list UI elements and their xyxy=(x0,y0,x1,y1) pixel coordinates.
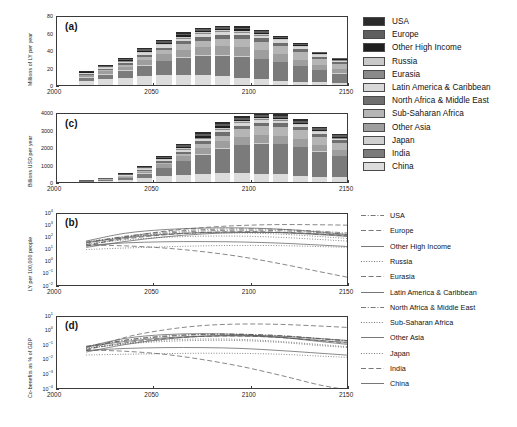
bar-stack xyxy=(254,30,269,85)
line-legend-item-china[interactable]: China xyxy=(361,378,409,389)
legend-label: North Africa & Middle East xyxy=(390,303,475,312)
bar-stack xyxy=(156,40,171,85)
bar-segment xyxy=(273,136,288,144)
legend-swatch xyxy=(363,96,385,105)
panel-b-plot-area: (b) xyxy=(56,213,348,286)
bar-segment xyxy=(254,59,269,79)
xtick-mark xyxy=(153,180,154,183)
bar-stack xyxy=(195,132,210,182)
legend-line-sample xyxy=(361,350,384,357)
xtick-label: 2050 xyxy=(144,391,158,398)
legend-swatch xyxy=(363,30,385,39)
ytick-label: 100 xyxy=(0,258,53,264)
ytick-label: 4000 xyxy=(0,110,53,116)
legend-line-sample xyxy=(361,365,384,372)
bar-segment xyxy=(273,174,288,182)
bar-segment xyxy=(234,129,249,136)
bar-segment xyxy=(118,180,133,182)
line-legend-item-japan[interactable]: Japan xyxy=(361,348,410,359)
legend-item-russia[interactable]: Russia xyxy=(363,56,417,67)
xtick-label: 2000 xyxy=(47,288,61,295)
legend-line-sample xyxy=(361,319,384,326)
bar-segment xyxy=(215,46,230,55)
bar-segment xyxy=(215,141,230,148)
bar-segment xyxy=(273,62,288,80)
bar-stack xyxy=(137,48,152,85)
xtick-mark xyxy=(56,180,57,183)
xtick-label: 2150 xyxy=(339,288,353,295)
line-legend-item-eurasia[interactable]: Eurasia xyxy=(361,271,415,282)
legend-label: India xyxy=(392,149,410,158)
bar-segment xyxy=(293,176,308,182)
bar-segment xyxy=(234,145,249,173)
legend-item-japan[interactable]: Japan xyxy=(363,135,415,146)
line-legend-item-india[interactable]: India xyxy=(361,363,406,374)
xtick-label: 2000 xyxy=(47,88,61,95)
line-legend-item-usa[interactable]: USA xyxy=(361,210,405,221)
line-legend-item-other-asia[interactable]: Other Asia xyxy=(361,332,424,343)
panel-d: Co-benefits as % of GDP 10−410−310−210−1… xyxy=(0,308,360,413)
line-legend-item-north-africa-middle-east[interactable]: North Africa & Middle East xyxy=(361,302,475,313)
bar-segment xyxy=(293,139,308,146)
panel-d-tag: (d) xyxy=(65,320,78,331)
ytick-label: 101 xyxy=(0,313,53,319)
xtick-mark xyxy=(348,83,349,86)
ytick-label: 2000 xyxy=(0,145,53,151)
legend-item-sub-saharan-africa[interactable]: Sub-Saharan Africa xyxy=(363,108,464,119)
bar-segment xyxy=(215,76,230,85)
legend-item-other-asia[interactable]: Other Asia xyxy=(363,122,431,133)
panel-a-ylabel: Millions of LY per year xyxy=(27,33,33,86)
bar-stack xyxy=(215,26,230,85)
legend-label: China xyxy=(390,379,409,388)
legend-label: Russia xyxy=(390,257,412,266)
legend-line-sample xyxy=(361,380,384,387)
bar-segment xyxy=(273,144,288,174)
panel-b: LY per 100,000 people 10−210−11001011021… xyxy=(0,205,360,308)
bar-stack xyxy=(215,122,230,182)
legend-item-usa[interactable]: USA xyxy=(363,16,409,27)
xtick-label: 2050 xyxy=(144,88,158,95)
bar-segment xyxy=(234,47,249,56)
legend-item-north-africa-middle-east[interactable]: North Africa & Middle East xyxy=(363,95,489,106)
legend-label: Sub-Saharan Africa xyxy=(392,109,464,118)
legend-line-sample xyxy=(361,258,384,265)
bar-stack xyxy=(332,134,347,182)
legend-item-other-high-income[interactable]: Other High Income xyxy=(363,42,462,53)
legend-line-sample xyxy=(361,212,384,219)
ytick-label: 0 xyxy=(0,180,53,186)
line-legend-item-other-high-income[interactable]: Other High Income xyxy=(361,241,451,252)
legend-swatch xyxy=(363,136,385,145)
legend-line-sample xyxy=(361,227,384,234)
ytick-label: 0 xyxy=(0,83,53,89)
xtick-label: 2000 xyxy=(47,391,61,398)
legend-label: Russia xyxy=(392,57,417,66)
legend-item-china[interactable]: China xyxy=(363,161,414,172)
bar-segment xyxy=(254,50,269,58)
legend-item-latin-america-caribbean[interactable]: Latin America & Caribbean xyxy=(363,82,491,93)
legend-swatch xyxy=(363,162,385,171)
legend-label: Other Asia xyxy=(392,123,431,132)
legend-item-europe[interactable]: Europe xyxy=(363,29,419,40)
legend-label: Japan xyxy=(392,136,415,145)
xtick-label: 2150 xyxy=(339,391,353,398)
line-legend-item-russia[interactable]: Russia xyxy=(361,256,412,267)
panel-a-tag: (a) xyxy=(65,21,78,32)
legend-line-sample xyxy=(361,289,384,296)
bar-segment xyxy=(332,143,347,150)
bar-stack xyxy=(118,58,133,85)
panel-c-tag: (c) xyxy=(65,118,78,129)
legend-item-eurasia[interactable]: Eurasia xyxy=(363,69,420,80)
legend-item-india[interactable]: India xyxy=(363,148,410,159)
bar-segment xyxy=(176,50,191,57)
bar-segment xyxy=(176,175,191,182)
bar-segment xyxy=(137,178,152,182)
panel-c-plot-area: (c) xyxy=(56,113,348,183)
ytick-label: 40 xyxy=(0,48,53,54)
line-legend-item-latin-america-caribbean[interactable]: Latin America & Caribbean xyxy=(361,287,477,298)
bar-stack xyxy=(118,173,133,182)
ytick-label: 102 xyxy=(0,234,53,240)
xtick-label: 2150 xyxy=(339,185,353,192)
bar-segment xyxy=(293,147,308,175)
line-legend-item-sub-saharan-africa[interactable]: Sub-Saharan Africa xyxy=(361,317,453,328)
line-legend-item-europe[interactable]: Europe xyxy=(361,225,413,236)
